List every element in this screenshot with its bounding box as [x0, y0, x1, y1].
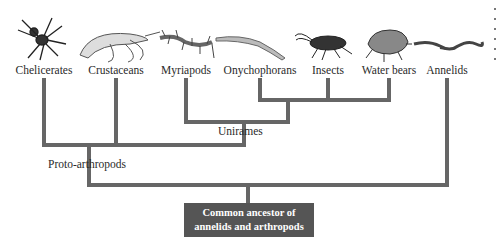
taxon-label-water-bears: Water bears	[362, 64, 416, 76]
root-label-line2: annelids and arthropods	[184, 220, 314, 234]
clade-label-proto-arthropods: Proto-arthropods	[48, 158, 126, 170]
common-ancestor-box: Common ancestor of annelids and arthropo…	[184, 203, 314, 237]
page-edge-marks	[490, 0, 499, 120]
taxon-label-insects: Insects	[312, 64, 344, 76]
taxon-label-chelicerates: Chelicerates	[16, 64, 73, 76]
clade-label-uniramian: Unirames	[218, 125, 263, 137]
phylogenetic-tree-diagram: Chelicerates Crustaceans Myriapods Onych…	[0, 0, 499, 245]
taxon-label-crustaceans: Crustaceans	[88, 64, 144, 76]
taxon-label-annelids: Annelids	[426, 64, 468, 76]
root-label-line1: Common ancestor of	[184, 206, 314, 220]
taxon-label-myriapods: Myriapods	[161, 64, 211, 76]
taxon-label-onychophorans: Onychophorans	[224, 64, 297, 76]
